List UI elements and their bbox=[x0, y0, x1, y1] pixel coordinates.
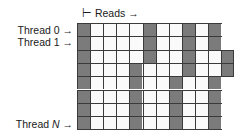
grid-cell bbox=[103, 63, 116, 76]
grid-cell bbox=[90, 90, 103, 103]
grid-cell-read bbox=[208, 76, 221, 89]
grid-cell bbox=[156, 76, 169, 89]
grid-cell bbox=[156, 50, 169, 63]
grid-cell bbox=[90, 63, 103, 76]
grid-cell bbox=[195, 50, 208, 63]
grid-cell bbox=[103, 50, 116, 63]
grid-cell bbox=[90, 36, 103, 49]
grid-cell bbox=[169, 23, 182, 36]
grid-cell bbox=[195, 23, 208, 36]
grid-line bbox=[77, 90, 222, 91]
grid-cell bbox=[195, 76, 208, 89]
grid-cell bbox=[182, 76, 195, 89]
grid-cell bbox=[143, 90, 156, 103]
grid-cell-read bbox=[143, 36, 156, 49]
grid-cell bbox=[156, 63, 169, 76]
grid-cell bbox=[116, 63, 129, 76]
grid-cell bbox=[116, 50, 129, 63]
grid-cell bbox=[116, 116, 129, 129]
grid-cell bbox=[116, 23, 129, 36]
thread-n-label: Thread N → bbox=[16, 118, 73, 130]
grid-cell-read bbox=[129, 63, 142, 76]
grid-line bbox=[77, 23, 222, 24]
grid-cell bbox=[116, 90, 129, 103]
grid-cell-read bbox=[77, 90, 90, 103]
grid-cell bbox=[129, 23, 142, 36]
grid-cell-read bbox=[169, 103, 182, 116]
grid-cell bbox=[143, 63, 156, 76]
grid-cell bbox=[195, 36, 208, 49]
grid-line bbox=[77, 116, 222, 117]
grid-line bbox=[77, 129, 222, 130]
grid-cell-read bbox=[169, 76, 182, 89]
grid-cell bbox=[182, 116, 195, 129]
grid-cell-read bbox=[77, 50, 90, 63]
grid-cell-read bbox=[182, 36, 195, 49]
grid-cell bbox=[103, 36, 116, 49]
grid-cell-read bbox=[129, 103, 142, 116]
grid-cell bbox=[143, 116, 156, 129]
grid-cell bbox=[169, 63, 182, 76]
grid-cell-read bbox=[182, 63, 195, 76]
grid-cell-read bbox=[143, 50, 156, 63]
grid-cell bbox=[90, 116, 103, 129]
grid-cell-read bbox=[129, 116, 142, 129]
grid-cell bbox=[90, 103, 103, 116]
grid-cell bbox=[195, 90, 208, 103]
grid-edge bbox=[233, 50, 234, 64]
grid-cell bbox=[90, 76, 103, 89]
grid-cell bbox=[156, 90, 169, 103]
grid-cell bbox=[182, 103, 195, 116]
grid-cell bbox=[103, 103, 116, 116]
grid-cell bbox=[129, 36, 142, 49]
grid-cell-read bbox=[77, 36, 90, 49]
grid-cell bbox=[103, 90, 116, 103]
grid-cell bbox=[182, 90, 195, 103]
grid-cell bbox=[90, 23, 103, 36]
grid-cell-read bbox=[129, 76, 142, 89]
thread-n-prefix: Thread bbox=[16, 118, 52, 130]
grid-cell bbox=[156, 36, 169, 49]
grid-cell bbox=[116, 36, 129, 49]
grid-line bbox=[77, 63, 234, 64]
grid-line bbox=[77, 50, 234, 51]
grid-cell bbox=[169, 50, 182, 63]
grid-cell-read bbox=[77, 63, 90, 76]
grid-cell bbox=[195, 63, 208, 76]
grid-cell bbox=[129, 50, 142, 63]
grid-cell-read bbox=[77, 23, 90, 36]
thread-n-arrow: → bbox=[60, 118, 73, 130]
grid-cell bbox=[156, 116, 169, 129]
grid-cell-read bbox=[169, 90, 182, 103]
grid-cell-read bbox=[208, 90, 221, 103]
grid-cell bbox=[143, 103, 156, 116]
grid-cell bbox=[208, 50, 221, 63]
grid-cell-read bbox=[182, 50, 195, 63]
grid-cell-read bbox=[208, 103, 221, 116]
grid-line bbox=[77, 103, 222, 104]
grid-cell-read bbox=[208, 23, 221, 36]
grid-cell-read bbox=[169, 116, 182, 129]
thread-1-label: Thread 1 → bbox=[18, 36, 73, 48]
grid-cell bbox=[103, 23, 116, 36]
grid-cell bbox=[195, 103, 208, 116]
grid-cell-read bbox=[129, 90, 142, 103]
grid-cell-read bbox=[208, 116, 221, 129]
grid-cell bbox=[208, 63, 221, 76]
grid-cell-read bbox=[208, 36, 221, 49]
grid-cell-read bbox=[77, 76, 90, 89]
grid-cell bbox=[143, 76, 156, 89]
reads-axis-label: ⊢ Reads → bbox=[82, 7, 139, 19]
grid-cell bbox=[90, 50, 103, 63]
grid-cell bbox=[103, 116, 116, 129]
grid-cell bbox=[116, 103, 129, 116]
grid-cell bbox=[169, 36, 182, 49]
grid-cell-read bbox=[77, 116, 90, 129]
grid-edge bbox=[233, 63, 234, 77]
grid-cell bbox=[195, 116, 208, 129]
grid-cell bbox=[156, 103, 169, 116]
grid-cell-read bbox=[182, 23, 195, 36]
thread-0-label: Thread 0 → bbox=[18, 24, 73, 36]
grid-line bbox=[77, 36, 222, 37]
grid-cell bbox=[156, 23, 169, 36]
